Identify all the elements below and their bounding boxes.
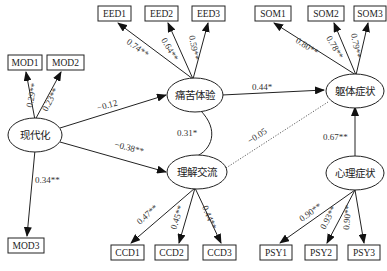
observed-eed2: EED2 xyxy=(145,6,178,21)
path-understanding-somatic: −0.05 xyxy=(246,126,269,146)
latent-psychological: 心理症状 xyxy=(326,156,384,190)
observed-psy3: PSY3 xyxy=(348,245,380,260)
edge-pain-understanding-cov xyxy=(195,110,212,157)
observed-psy3-label: PSY3 xyxy=(353,248,375,258)
observed-ccd1-label: CCD1 xyxy=(115,248,140,258)
observed-eed1: EED1 xyxy=(98,6,131,21)
observed-mod3-label: MOD3 xyxy=(13,241,40,251)
observed-som2: SOM2 xyxy=(308,6,344,21)
loading-eed1: 0.74** xyxy=(125,37,151,60)
loading-mod1: 0.29** xyxy=(24,82,39,109)
latent-somatic: 躯体症状 xyxy=(326,74,384,108)
loading-ccd2: 0.45** xyxy=(168,204,185,231)
loading-som1: 0.80** xyxy=(294,35,321,57)
observed-eed1-label: EED1 xyxy=(103,9,126,19)
observed-mod1-label: MOD1 xyxy=(12,58,39,68)
observed-som3-label: SOM3 xyxy=(357,9,383,19)
latent-modernization: 现代化 xyxy=(8,118,62,152)
latent-modernization-label: 现代化 xyxy=(20,129,51,141)
loading-psy3: 0.90** xyxy=(341,204,353,230)
loading-ccd3: 0.44** xyxy=(200,204,219,231)
path-psych-somatic: 0.67** xyxy=(323,132,348,142)
path-pain-somatic: 0.44* xyxy=(252,82,273,92)
loading-som3: 0.79** xyxy=(349,33,363,60)
loading-eed2: 0.64** xyxy=(159,36,180,63)
observed-psy2: PSY2 xyxy=(305,245,337,260)
edge-psych-psy3 xyxy=(355,190,364,243)
observed-som2-label: SOM2 xyxy=(313,9,339,19)
observed-ccd3-label: CCD3 xyxy=(207,248,232,258)
edge-pain-eed1 xyxy=(118,23,193,79)
latent-psychological-label: 心理症状 xyxy=(335,167,376,179)
observed-ccd2-label: CCD2 xyxy=(159,248,184,258)
latent-pain-experience-label: 痛苦体验 xyxy=(175,89,216,101)
sem-diagram: MOD1 MOD2 MOD3 EED1 EED2 EED3 SOM1 SOM2 … xyxy=(0,0,387,271)
loading-psy1: 0.90** xyxy=(297,201,323,224)
latent-understanding-label: 理解交流 xyxy=(177,166,218,178)
loading-eed3: 0.59** xyxy=(187,35,201,62)
path-pain-understanding-cov: 0.31* xyxy=(177,128,198,138)
edge-understanding-somatic xyxy=(226,102,328,168)
loading-mod3: 0.34** xyxy=(35,175,60,185)
observed-mod2: MOD2 xyxy=(47,55,84,70)
observed-som1-label: SOM1 xyxy=(260,9,286,19)
observed-ccd2: CCD2 xyxy=(155,245,188,260)
path-mod-understanding: −0.38** xyxy=(114,139,146,156)
observed-mod3: MOD3 xyxy=(8,238,44,253)
edge-mod-understanding xyxy=(60,142,166,172)
observed-eed2-label: EED2 xyxy=(150,9,173,19)
loading-ccd1: 0.47** xyxy=(135,202,160,226)
latent-understanding: 理解交流 xyxy=(167,155,227,189)
observed-psy1-label: PSY1 xyxy=(265,248,287,258)
loading-mod2: 0.23** xyxy=(40,86,61,113)
latent-somatic-label: 躯体症状 xyxy=(335,85,376,97)
observed-psy1: PSY1 xyxy=(260,245,292,260)
observed-eed3: EED3 xyxy=(192,6,225,21)
observed-ccd1: CCD1 xyxy=(111,245,144,260)
observed-psy2-label: PSY2 xyxy=(310,248,332,258)
latent-pain-experience: 痛苦体验 xyxy=(167,78,223,112)
observed-mod1: MOD1 xyxy=(8,55,42,70)
observed-eed3-label: EED3 xyxy=(197,9,220,19)
edge-pain-somatic xyxy=(222,90,324,95)
observed-mod2-label: MOD2 xyxy=(52,58,79,68)
edge-mod-mod3 xyxy=(27,150,35,236)
observed-som3: SOM3 xyxy=(354,6,386,21)
observed-ccd3: CCD3 xyxy=(203,245,236,260)
observed-som1: SOM1 xyxy=(255,6,291,21)
